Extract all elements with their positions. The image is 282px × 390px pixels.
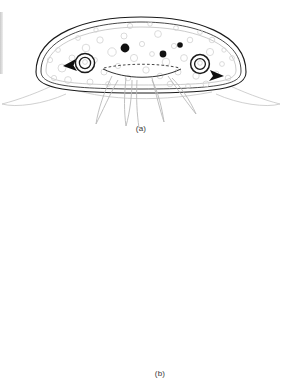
panel-a-caption: (a) — [121, 124, 161, 133]
panel-b-caption: (b) — [140, 369, 180, 378]
panel-a-right-ring-organ — [191, 55, 210, 74]
scientific-figure: (a) (b) — [0, 0, 282, 390]
panel-a-bell-outline — [36, 17, 246, 93]
dark-spot-2 — [160, 51, 167, 58]
dark-spot-3 — [177, 42, 183, 48]
dark-spot-1 — [121, 44, 130, 53]
figure-illustration — [0, 0, 282, 390]
panel-a-left-ring-organ — [75, 53, 94, 72]
panel-a-illustration — [2, 17, 280, 128]
